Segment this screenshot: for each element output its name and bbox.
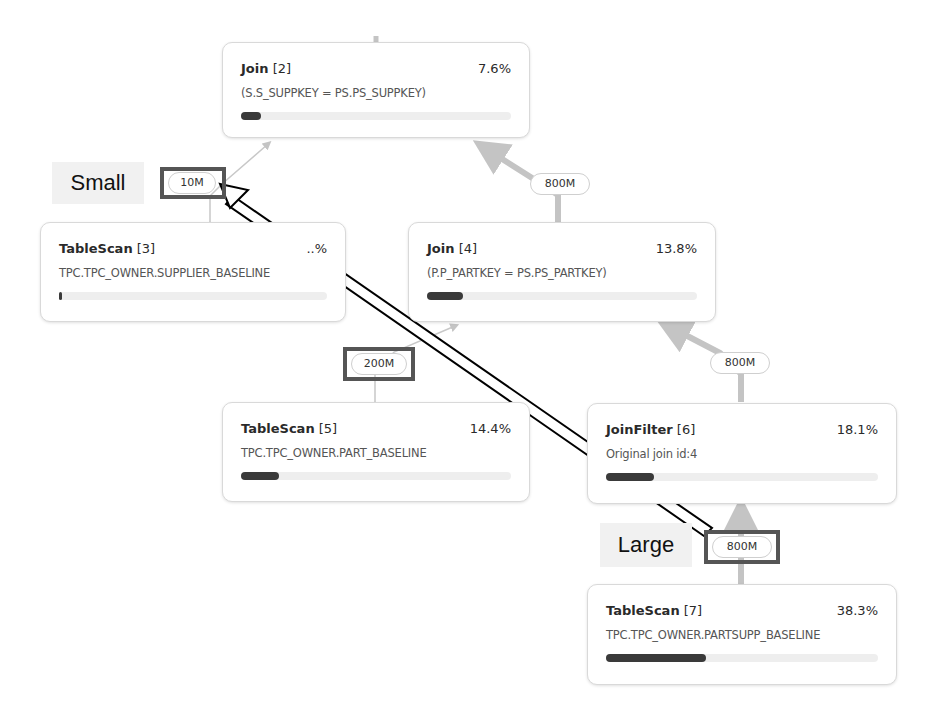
plan-node-join-2[interactable]: Join [2] 7.6% (S.S_SUPPKEY = PS.PS_SUPPK…	[222, 42, 530, 138]
node-percent: ..%	[306, 241, 327, 256]
node-cost-bar-fill	[606, 654, 706, 662]
node-detail: (S.S_SUPPKEY = PS.PS_SUPPKEY)	[241, 86, 511, 100]
node-detail: TPC.TPC_OWNER.SUPPLIER_BASELINE	[59, 266, 327, 280]
node-index: [4]	[459, 241, 477, 256]
plan-node-tablescan-7[interactable]: TableScan [7] 38.3% TPC.TPC_OWNER.PARTSU…	[587, 584, 897, 685]
node-detail: Original join id:4	[606, 447, 878, 461]
node-cost-bar-fill	[241, 112, 261, 120]
node-percent: 18.1%	[837, 422, 878, 437]
node-cost-bar	[427, 292, 697, 300]
row-count-pill-200m[interactable]: 200M	[351, 353, 407, 375]
row-count-pill-800m-jf6[interactable]: 800M	[710, 352, 770, 374]
node-index: [3]	[137, 241, 155, 256]
node-cost-bar-fill	[606, 473, 654, 481]
annotation-large-label: Large	[600, 523, 692, 567]
node-percent: 14.4%	[470, 421, 511, 436]
node-detail: TPC.TPC_OWNER.PART_BASELINE	[241, 446, 511, 460]
node-cost-bar	[59, 292, 327, 300]
node-cost-bar-fill	[59, 292, 62, 300]
node-cost-bar	[241, 472, 511, 480]
plan-node-tablescan-3[interactable]: TableScan [3] ..% TPC.TPC_OWNER.SUPPLIER…	[40, 222, 346, 322]
node-index: [2]	[273, 61, 291, 76]
row-count-pill-10m[interactable]: 10M	[168, 172, 216, 194]
node-percent: 7.6%	[478, 61, 511, 76]
node-title: TableScan	[59, 241, 133, 256]
plan-node-tablescan-5[interactable]: TableScan [5] 14.4% TPC.TPC_OWNER.PART_B…	[222, 402, 530, 502]
node-title: JoinFilter	[606, 422, 673, 437]
node-cost-bar-fill	[241, 472, 279, 480]
node-percent: 13.8%	[656, 241, 697, 256]
plan-node-joinfilter-6[interactable]: JoinFilter [6] 18.1% Original join id:4	[587, 403, 897, 504]
node-cost-bar	[241, 112, 511, 120]
node-detail: TPC.TPC_OWNER.PARTSUPP_BASELINE	[606, 628, 878, 642]
node-title: Join	[427, 241, 454, 256]
plan-node-join-4[interactable]: Join [4] 13.8% (P.P_PARTKEY = PS.PS_PART…	[408, 222, 716, 322]
node-percent: 38.3%	[837, 603, 878, 618]
node-title: Join	[241, 61, 268, 76]
node-title: TableScan	[241, 421, 315, 436]
node-index: [7]	[684, 603, 702, 618]
node-index: [6]	[677, 422, 695, 437]
node-title: TableScan	[606, 603, 680, 618]
node-detail: (P.P_PARTKEY = PS.PS_PARTKEY)	[427, 266, 697, 280]
node-cost-bar	[606, 654, 878, 662]
row-count-pill-800m-join4[interactable]: 800M	[530, 173, 590, 195]
query-plan-diagram: Join [2] 7.6% (S.S_SUPPKEY = PS.PS_SUPPK…	[0, 0, 930, 721]
node-cost-bar	[606, 473, 878, 481]
row-count-pill-800m-ts7[interactable]: 800M	[712, 536, 772, 558]
node-index: [5]	[319, 421, 337, 436]
annotation-small-label: Small	[52, 162, 144, 204]
node-cost-bar-fill	[427, 292, 463, 300]
